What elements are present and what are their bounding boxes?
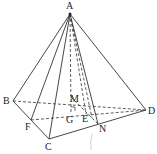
apex-dot (69, 13, 72, 16)
label-N: N (99, 124, 106, 134)
label-M: M (70, 94, 79, 104)
label-A: A (66, 1, 73, 11)
label-D: D (148, 106, 155, 116)
right-angle-mark (71, 107, 75, 111)
label-C: C (45, 142, 52, 152)
edge-AB (13, 14, 70, 101)
pyramid-figure (0, 0, 157, 154)
stray-mark (91, 134, 92, 150)
label-F: F (25, 122, 31, 132)
edge-AD (70, 14, 146, 110)
edge-AN (70, 14, 98, 124)
label-E: E (82, 114, 88, 124)
label-B: B (3, 96, 10, 106)
pyramid-diagram: A B C D F G M E N (0, 0, 157, 154)
label-G: G (66, 115, 73, 125)
